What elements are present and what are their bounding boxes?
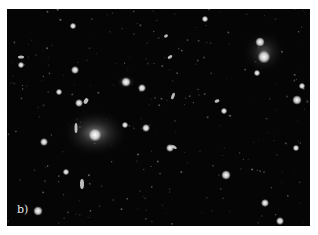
galaxy — [70, 23, 76, 29]
galaxy-cluster-image: b) — [7, 9, 310, 226]
galaxy — [254, 70, 260, 76]
galaxy — [221, 170, 231, 180]
galaxy — [83, 97, 89, 104]
galaxy — [293, 145, 299, 151]
galaxy — [142, 124, 150, 132]
galaxy — [18, 56, 24, 59]
galaxy — [261, 199, 269, 207]
galaxy — [18, 62, 24, 68]
galaxy — [122, 122, 128, 128]
galaxy — [138, 84, 146, 92]
galaxy — [164, 34, 169, 39]
galaxy — [299, 83, 305, 89]
galaxy — [276, 217, 284, 225]
galaxy — [75, 99, 83, 107]
galaxy — [221, 108, 227, 114]
galaxy — [56, 89, 62, 95]
galaxy — [170, 92, 175, 100]
galaxy — [214, 99, 220, 104]
galaxy — [75, 123, 78, 133]
galaxy — [89, 129, 102, 142]
galaxy — [255, 37, 265, 47]
galaxy — [80, 179, 84, 189]
galaxy — [292, 95, 302, 105]
galaxy — [33, 206, 43, 216]
panel-label: b) — [17, 204, 28, 216]
galaxy — [258, 51, 271, 64]
galaxy — [167, 54, 173, 59]
galaxy — [40, 138, 48, 146]
galaxy — [63, 169, 69, 175]
galaxy — [71, 66, 79, 74]
galaxy — [202, 16, 208, 22]
starfield — [7, 9, 310, 226]
galaxy — [121, 77, 131, 87]
